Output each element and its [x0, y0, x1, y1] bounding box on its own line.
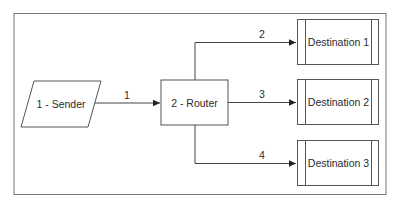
node-destination-1[interactable]: Destination 1: [298, 20, 379, 65]
destination-3-label: Destination 3: [308, 157, 369, 169]
edge-router-dest3: 4: [195, 125, 296, 164]
router-label: 2 - Router: [171, 97, 218, 109]
node-sender[interactable]: 1 - Sender: [21, 81, 101, 127]
edge-label-3: 3: [259, 88, 265, 100]
edge-label-1: 1: [124, 89, 130, 101]
destination-2-label: Destination 2: [308, 96, 369, 108]
edge-router-dest2: 3: [228, 88, 296, 103]
destination-1-label: Destination 1: [308, 36, 369, 48]
node-destination-2[interactable]: Destination 2: [298, 80, 379, 125]
edge-label-4: 4: [259, 149, 265, 161]
edge-label-2: 2: [259, 28, 265, 40]
edge-sender-router: 1: [95, 89, 160, 103]
node-destination-3[interactable]: Destination 3: [298, 141, 379, 186]
sender-label: 1 - Sender: [36, 98, 86, 110]
edge-router-dest1: 2: [195, 28, 296, 80]
diagram-canvas: 1 - Sender 1 2 - Router 2 3 4 Destinatio…: [0, 0, 400, 202]
node-router[interactable]: 2 - Router: [161, 80, 228, 125]
